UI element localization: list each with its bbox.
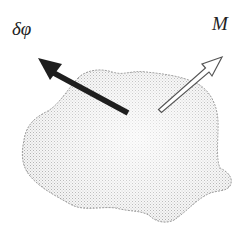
rigid-body-diagram: [0, 0, 252, 228]
dphi-label: δφ: [12, 19, 31, 38]
rigid-body-blob: [22, 70, 231, 222]
moment-label: M: [212, 14, 228, 33]
